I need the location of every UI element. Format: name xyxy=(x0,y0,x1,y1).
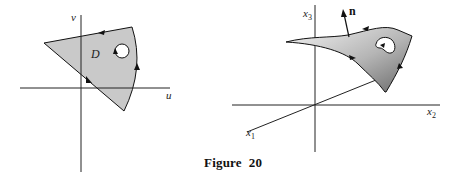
figure-caption: Figure 20 xyxy=(204,155,262,171)
x1-axis xyxy=(247,80,376,132)
v-axis-label: v xyxy=(71,11,76,23)
normal-label: n xyxy=(349,4,356,18)
figure-canvas: v u D x3 n x2 x1 xyxy=(0,0,460,179)
region-hole xyxy=(115,44,129,58)
right-panel: x3 n x2 x1 xyxy=(232,4,440,152)
x3-axis-label: x3 xyxy=(302,7,312,22)
u-axis-label: u xyxy=(166,89,172,101)
x2-axis-label: x2 xyxy=(426,105,436,120)
x1-axis-label: x1 xyxy=(245,126,255,141)
surface xyxy=(286,27,412,92)
normal-arrowhead-icon xyxy=(341,9,347,17)
left-panel: v u D xyxy=(20,11,172,172)
region-d xyxy=(44,27,137,111)
region-label: D xyxy=(90,47,100,61)
